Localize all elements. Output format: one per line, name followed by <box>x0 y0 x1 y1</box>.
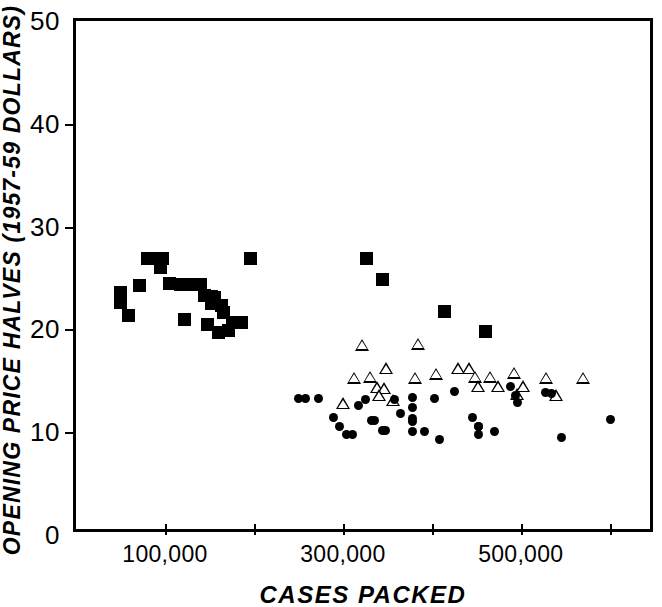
data-point-circle <box>314 394 323 403</box>
data-point-circle <box>606 415 615 424</box>
data-point-circle <box>348 430 357 439</box>
data-point-square <box>376 273 389 286</box>
data-point-triangle <box>507 367 521 379</box>
data-point-circle <box>474 430 483 439</box>
data-point-triangle <box>336 397 350 409</box>
data-point-circle <box>547 389 556 398</box>
x-tick-label: 500,000 <box>478 541 563 568</box>
y-tick-label: 50 <box>30 6 60 37</box>
data-point-circle <box>408 393 417 402</box>
y-axis-label-container: OPENING PRICE HALVES (1957-59 DOLLARS) <box>16 0 46 560</box>
data-point-square <box>360 252 373 265</box>
data-point-triangle <box>491 380 505 392</box>
data-point-triangle <box>347 372 361 384</box>
data-point-square <box>479 325 492 338</box>
data-point-circle <box>450 387 459 396</box>
data-point-circle <box>468 413 477 422</box>
data-point-triangle <box>429 368 443 380</box>
data-point-circle <box>435 435 444 444</box>
data-point-circle <box>408 403 417 412</box>
data-point-square <box>156 252 169 265</box>
data-point-circle <box>557 433 566 442</box>
y-tick-label: 20 <box>30 314 60 345</box>
x-tick-label: 100,000 <box>122 541 207 568</box>
data-point-square <box>244 252 257 265</box>
data-point-triangle <box>516 380 530 392</box>
y-tick-mark <box>65 432 76 434</box>
data-point-circle <box>329 413 338 422</box>
data-point-circle <box>408 427 417 436</box>
x-tick-mark <box>343 524 345 535</box>
data-point-circle <box>408 417 417 426</box>
data-point-triangle <box>411 338 425 350</box>
y-tick-mark <box>65 227 76 229</box>
data-point-circle <box>361 395 370 404</box>
plot-area: 01020304050 100,000300,000500,000 CASES … <box>73 18 653 532</box>
x-tick-mark <box>254 524 256 535</box>
data-point-square <box>133 279 146 292</box>
y-tick-label: 40 <box>30 108 60 139</box>
y-tick-label: 30 <box>30 211 60 242</box>
data-point-circle <box>396 409 405 418</box>
data-point-circle <box>513 398 522 407</box>
data-point-square <box>122 309 135 322</box>
data-point-circle <box>335 422 344 431</box>
data-point-circle <box>370 416 379 425</box>
y-tick-label: 10 <box>30 417 60 448</box>
data-point-circle <box>301 394 310 403</box>
data-point-circle <box>420 427 429 436</box>
x-tick-mark <box>521 524 523 535</box>
x-tick-mark <box>165 524 167 535</box>
data-point-circle <box>390 395 399 404</box>
data-point-triangle <box>372 389 386 401</box>
y-tick-label: 0 <box>45 520 60 551</box>
x-axis-label: CASES PACKED <box>76 581 650 607</box>
data-point-triangle <box>408 372 422 384</box>
y-axis-label: OPENING PRICE HALVES (1957-59 DOLLARS) <box>0 5 26 555</box>
data-point-triangle <box>379 362 393 374</box>
data-point-triangle <box>355 339 369 351</box>
x-tick-mark <box>610 524 612 535</box>
data-point-square <box>235 316 248 329</box>
data-point-circle <box>381 426 390 435</box>
y-tick-mark <box>65 124 76 126</box>
data-point-triangle <box>576 372 590 384</box>
data-point-circle <box>490 427 499 436</box>
x-tick-mark <box>432 524 434 535</box>
data-point-circle <box>430 394 439 403</box>
data-point-square <box>114 296 127 309</box>
y-tick-mark <box>65 329 76 331</box>
data-point-triangle <box>539 372 553 384</box>
x-tick-label: 300,000 <box>300 541 385 568</box>
data-point-square <box>438 305 451 318</box>
data-point-square <box>178 313 191 326</box>
